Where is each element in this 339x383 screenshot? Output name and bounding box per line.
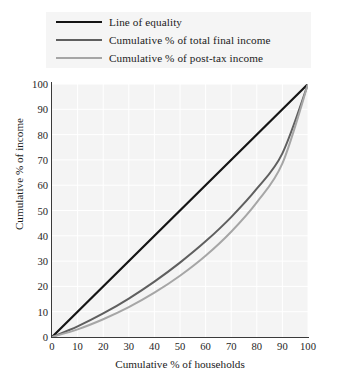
legend-item-line-of-equality: Line of equality [56, 13, 182, 31]
y-tick-label: 100 [4, 79, 48, 90]
y-tick-label: 30 [4, 256, 48, 267]
legend-swatch-icon [56, 57, 102, 59]
legend-swatch-icon [56, 39, 102, 41]
y-tick-label: 20 [4, 281, 48, 292]
legend-label: Cumulative % of total final income [109, 34, 271, 46]
x-axis-ticks: 0102030405060708090100 [52, 341, 308, 357]
x-axis-line [51, 337, 309, 338]
legend-swatch-icon [56, 21, 102, 23]
y-tick-label: 40 [4, 230, 48, 241]
legend-item-post-tax-income: Cumulative % of post-tax income [56, 49, 263, 67]
y-axis-line [51, 82, 52, 338]
plot-area [52, 84, 308, 337]
y-tick-label: 10 [4, 306, 48, 317]
legend-label: Cumulative % of post-tax income [109, 52, 263, 64]
legend-item-total-final-income: Cumulative % of total final income [56, 31, 271, 49]
y-tick-label: 90 [4, 104, 48, 115]
chart-legend: Line of equality Cumulative % of total f… [46, 12, 311, 68]
y-axis-title: Cumulative % of income [13, 99, 25, 249]
y-tick-label: 60 [4, 180, 48, 191]
x-tick-label: 100 [288, 341, 328, 353]
lorenz-curve-figure: Line of equality Cumulative % of total f… [0, 0, 339, 383]
legend-label: Line of equality [109, 16, 182, 28]
chart-canvas [52, 84, 308, 337]
y-tick-label: 50 [4, 205, 48, 216]
x-axis-title: Cumulative % of households [52, 358, 308, 370]
y-tick-label: 70 [4, 154, 48, 165]
y-tick-label: 80 [4, 129, 48, 140]
